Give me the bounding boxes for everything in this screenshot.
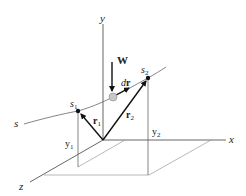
- ground-right-edge: [149, 140, 211, 175]
- r2-label: r2: [126, 109, 134, 122]
- y-axis-label: y: [99, 12, 105, 24]
- s1-sub: 1: [74, 103, 78, 111]
- y1-sub: 1: [70, 143, 74, 151]
- r1-sub: 1: [97, 120, 101, 128]
- z-axis-label: z: [18, 180, 24, 192]
- s1-label: s1: [70, 98, 78, 111]
- x-axis-label: x: [228, 133, 234, 145]
- weight-label: W: [117, 54, 128, 66]
- particle: [109, 93, 117, 101]
- y1-label: y1: [65, 138, 74, 151]
- y2-label: y2: [152, 126, 161, 139]
- r1-label: r1: [93, 115, 101, 128]
- ground-line-s1: [78, 140, 125, 167]
- y2-sub: 2: [157, 131, 161, 139]
- dr-vector: [116, 88, 129, 95]
- dr-label: dr: [121, 77, 131, 88]
- dr-r: r: [126, 77, 131, 88]
- path-label: s: [14, 117, 18, 129]
- s2-label: s2: [141, 64, 149, 77]
- work-diagram: y x z s W dr s1 s2 r1 r2 y1 y2: [0, 0, 246, 196]
- r2-sub: 2: [130, 114, 134, 122]
- s2-sub: 2: [145, 69, 149, 77]
